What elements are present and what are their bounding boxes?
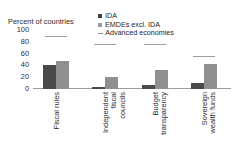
legend-swatch-square-icon	[98, 23, 102, 27]
bar-ida[interactable]	[92, 87, 105, 89]
marker-advanced-economies[interactable]	[94, 44, 116, 45]
bar-group	[182, 30, 232, 89]
y-tick-label: 80	[21, 38, 29, 45]
y-tick-label: 20	[21, 73, 29, 80]
x-axis-label: Fiscal rules	[53, 92, 61, 150]
bar-ida[interactable]	[142, 85, 155, 89]
x-axis-label-line: Fiscal rules	[53, 92, 61, 150]
y-tick-label: 60	[21, 50, 29, 57]
legend-swatch-square-icon	[98, 14, 102, 18]
x-axis-label: Independentfiscalcouncils	[102, 92, 127, 150]
marker-advanced-economies[interactable]	[144, 44, 166, 45]
bar-emdes[interactable]	[155, 70, 168, 89]
bar-group	[33, 30, 83, 89]
x-axis-label-line: wealth funds	[210, 92, 218, 150]
bar-emdes[interactable]	[56, 61, 69, 89]
marker-advanced-economies[interactable]	[45, 36, 67, 37]
bar-ida[interactable]	[191, 83, 204, 89]
bar-emdes[interactable]	[105, 77, 118, 89]
chart-container: Percent of countries IDA EMDEs excl. IDA…	[0, 0, 237, 150]
x-axis-label: Budgettransparency	[152, 92, 169, 150]
x-axis-label-line: councils	[119, 92, 127, 150]
x-axis-category-labels: Fiscal rulesIndependentfiscalcouncilsBud…	[33, 92, 231, 150]
x-axis-label: Sovereignwealth funds	[201, 92, 218, 150]
y-tick-label: 100	[17, 26, 29, 33]
marker-advanced-economies[interactable]	[193, 56, 215, 57]
bar-ida[interactable]	[43, 65, 56, 89]
y-tick-label: 0	[25, 85, 29, 92]
x-axis-label-line: transparency	[160, 92, 168, 150]
y-tick-label: 40	[21, 62, 29, 69]
y-axis-ticks: 100806040200	[0, 30, 31, 89]
bar-group	[132, 30, 182, 89]
plot-area	[33, 30, 231, 89]
bar-group	[83, 30, 133, 89]
bar-emdes[interactable]	[204, 64, 217, 89]
